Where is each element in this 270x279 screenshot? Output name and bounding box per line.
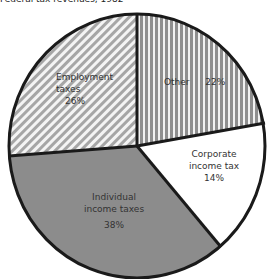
label-other-pct: 22% (205, 77, 225, 87)
pie-chart (0, 0, 270, 279)
label-employment-pct: 26% (56, 95, 126, 107)
label-other-line1: Other (164, 77, 190, 87)
label-corporate-pct: 14% (180, 172, 248, 184)
label-employment-taxes: Employment taxes 26% (56, 71, 126, 107)
label-other: Other 22% (164, 76, 244, 88)
label-corporate-income-tax: Corporate income tax 14% (180, 148, 248, 184)
label-individual-income-taxes: Individual income taxes 38% (74, 191, 154, 231)
label-individual-pct: 38% (74, 219, 154, 231)
label-individual-line2: income taxes (74, 203, 154, 215)
label-employment-line2: taxes (56, 83, 126, 95)
slice-other (137, 0, 270, 146)
label-individual-line1: Individual (74, 191, 154, 203)
label-corporate-line2: income tax (180, 160, 248, 172)
label-corporate-line1: Corporate (180, 148, 248, 160)
label-employment-line1: Employment (56, 71, 126, 83)
